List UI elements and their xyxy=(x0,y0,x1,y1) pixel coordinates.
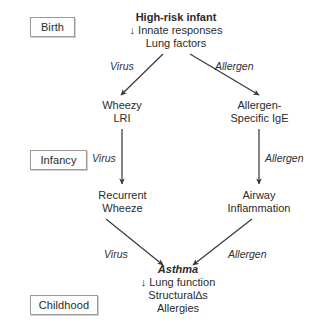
node-airway-inflammation-line-2: Inflammation xyxy=(210,202,308,215)
stage-box-birth: Birth xyxy=(30,17,75,37)
stage-label-infancy: Infancy xyxy=(40,154,76,166)
stage-box-childhood: Childhood xyxy=(30,295,98,315)
node-asthma-line-1: ↓ Lung function xyxy=(110,276,246,289)
edge-label-virus-top: Virus xyxy=(110,60,134,72)
node-wheezy-lri-line-1: Wheezy xyxy=(82,99,162,112)
node-high-risk-infant-line-2: Lung factors xyxy=(105,37,247,50)
node-asthma-line-3: Allergies xyxy=(110,302,246,315)
node-allergen-specific-ige: Allergen- Specific IgE xyxy=(212,99,307,125)
node-recurrent-wheeze: Recurrent Wheeze xyxy=(80,189,165,215)
node-asthma-heading: Asthma xyxy=(110,263,246,276)
node-recurrent-wheeze-line-2: Wheeze xyxy=(80,202,165,215)
stage-box-infancy: Infancy xyxy=(30,150,87,170)
node-high-risk-infant-heading: High-risk infant xyxy=(105,11,247,24)
node-high-risk-infant-line-1: ↓ Innate responses xyxy=(105,24,247,37)
node-asthma-line-2: Structural∆s xyxy=(110,289,246,302)
edge-label-virus-middle: Virus xyxy=(92,152,116,164)
node-high-risk-infant: High-risk infant ↓ Innate responses Lung… xyxy=(105,11,247,50)
diagram-canvas: Birth Infancy Childhood High-risk infant… xyxy=(0,0,318,333)
edge-label-allergen-top: Allergen xyxy=(215,60,254,72)
node-recurrent-wheeze-line-1: Recurrent xyxy=(80,189,165,202)
node-wheezy-lri-line-2: LRI xyxy=(82,112,162,125)
node-wheezy-lri: Wheezy LRI xyxy=(82,99,162,125)
stage-label-birth: Birth xyxy=(41,21,64,33)
node-airway-inflammation-line-1: Airway xyxy=(210,189,308,202)
edge-label-allergen-bottom: Allergen xyxy=(228,248,267,260)
edge-label-virus-bottom: Virus xyxy=(104,248,128,260)
node-allergen-specific-ige-line-2: Specific IgE xyxy=(212,112,307,125)
edge-label-allergen-middle: Allergen xyxy=(265,152,304,164)
stage-label-childhood: Childhood xyxy=(39,299,89,311)
node-airway-inflammation: Airway Inflammation xyxy=(210,189,308,215)
node-allergen-specific-ige-line-1: Allergen- xyxy=(212,99,307,112)
node-asthma: Asthma ↓ Lung function Structural∆s Alle… xyxy=(110,263,246,315)
